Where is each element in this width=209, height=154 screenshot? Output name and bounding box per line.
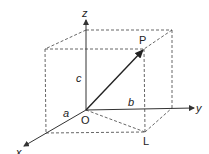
point-o-label: O bbox=[81, 114, 90, 126]
x-axis-label: x bbox=[15, 146, 22, 154]
coordinate-box-diagram: z y x P O L a b c bbox=[0, 0, 209, 154]
y-axis-label: y bbox=[195, 102, 203, 114]
z-axis-label: z bbox=[81, 7, 88, 19]
dimension-b-label: b bbox=[128, 96, 134, 108]
dimension-c-label: c bbox=[76, 72, 82, 84]
y-axis bbox=[86, 108, 194, 110]
axes bbox=[24, 20, 194, 146]
point-p-label: P bbox=[139, 34, 146, 46]
dimension-a-label: a bbox=[63, 107, 69, 119]
vector-op bbox=[86, 50, 143, 110]
x-axis bbox=[24, 110, 86, 146]
point-l-label: L bbox=[143, 135, 149, 147]
